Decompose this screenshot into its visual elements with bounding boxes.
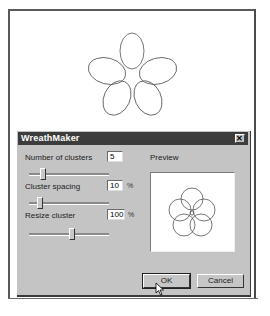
cluster-spacing-input[interactable]: 10 (107, 180, 123, 191)
dialog-title: WreathMaker (21, 133, 80, 143)
cancel-button[interactable]: Cancel (197, 274, 244, 288)
mouse-pointer-icon (155, 282, 165, 296)
close-button[interactable]: ✕ (235, 134, 245, 143)
document-window-bottom-edge (8, 298, 258, 299)
resize-cluster-slider-thumb[interactable] (69, 228, 75, 240)
dialog-titlebar[interactable]: WreathMaker ✕ (18, 132, 248, 145)
cluster-spacing-unit: % (127, 182, 133, 189)
number-of-clusters-slider-thumb[interactable] (40, 168, 46, 180)
cluster-spacing-slider-thumb[interactable] (37, 197, 43, 209)
close-icon: ✕ (236, 134, 243, 143)
cluster-spacing-label: Cluster spacing (25, 182, 80, 191)
preview-wreath (151, 173, 234, 251)
ok-button[interactable]: OK (143, 274, 190, 288)
resize-cluster-input[interactable]: 100 (107, 209, 125, 220)
wreath-drawing (70, 28, 200, 118)
preview-pane (150, 172, 235, 252)
wreathmaker-dialog: WreathMaker ✕ Number of clusters 5 Clust… (17, 131, 251, 297)
resize-cluster-unit: % (128, 211, 134, 218)
preview-label: Preview (150, 153, 178, 162)
number-of-clusters-label: Number of clusters (25, 153, 92, 162)
resize-cluster-label: Resize cluster (25, 211, 75, 220)
number-of-clusters-input[interactable]: 5 (107, 151, 123, 162)
